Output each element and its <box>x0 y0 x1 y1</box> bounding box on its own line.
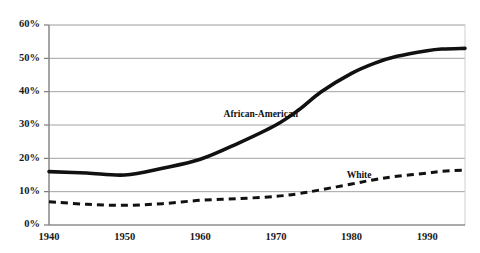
y-tick-label: 50% <box>19 52 40 63</box>
y-axis-tick-labels: 0%10%20%30%40%50%60% <box>19 18 40 229</box>
series-label-african-american: African-American <box>224 109 299 119</box>
y-tick-label: 40% <box>19 85 40 96</box>
series-label-white: White <box>347 170 372 180</box>
chart-container: 0%10%20%30%40%50%60% 1940195019601970198… <box>0 0 480 253</box>
y-tick-label: 30% <box>19 118 40 129</box>
series-lines-group <box>49 48 465 205</box>
x-tick-label: 1960 <box>190 231 211 242</box>
series-annotations-group: African-AmericanWhite <box>224 109 372 180</box>
y-axis-ticks-group <box>44 25 49 225</box>
x-axis-tick-labels: 194019501960197019801990 <box>39 231 438 242</box>
x-tick-label: 1970 <box>265 231 286 242</box>
y-tick-label: 10% <box>19 185 40 196</box>
y-tick-label: 60% <box>19 18 40 29</box>
x-tick-label: 1940 <box>39 231 60 242</box>
x-tick-label: 1980 <box>341 231 362 242</box>
x-tick-label: 1990 <box>417 231 438 242</box>
y-tick-label: 20% <box>19 152 40 163</box>
y-tick-label: 0% <box>24 218 40 229</box>
x-tick-label: 1950 <box>114 231 135 242</box>
line-chart: 0%10%20%30%40%50%60% 1940195019601970198… <box>0 0 480 253</box>
